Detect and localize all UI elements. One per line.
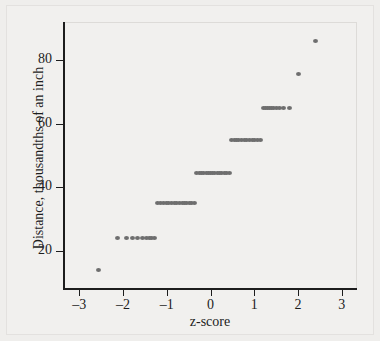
y-tick-mark bbox=[56, 124, 63, 125]
y-axis-spine bbox=[63, 22, 65, 290]
x-axis-label: z-score bbox=[63, 314, 357, 330]
figure-canvas: –3–2–10123 20406080 z-score Distance, th… bbox=[0, 0, 380, 341]
x-tick-label: –2 bbox=[103, 297, 143, 313]
x-tick-mark bbox=[167, 290, 168, 296]
x-tick-label: 2 bbox=[278, 297, 318, 313]
x-tick-mark bbox=[298, 290, 299, 296]
data-point bbox=[258, 138, 263, 142]
y-tick-mark bbox=[56, 251, 63, 252]
data-point bbox=[227, 171, 232, 175]
x-tick-label: –1 bbox=[147, 297, 187, 313]
x-tick-label: 1 bbox=[234, 297, 274, 313]
x-tick-mark bbox=[342, 290, 343, 296]
data-point bbox=[287, 106, 292, 110]
x-tick-label: 3 bbox=[322, 297, 362, 313]
x-tick-mark bbox=[79, 290, 80, 296]
y-tick-mark bbox=[56, 187, 63, 188]
x-tick-mark bbox=[123, 290, 124, 296]
x-tick-label: 0 bbox=[191, 297, 231, 313]
data-point bbox=[130, 236, 135, 240]
x-tick-label: –3 bbox=[59, 297, 99, 313]
y-tick-mark bbox=[56, 60, 63, 61]
y-axis-label: Distance, thousandths of an inch bbox=[31, 23, 47, 293]
data-point bbox=[152, 236, 157, 240]
data-point bbox=[281, 106, 286, 110]
plot-area-frame bbox=[63, 22, 357, 290]
x-tick-mark bbox=[211, 290, 212, 296]
x-tick-mark bbox=[254, 290, 255, 296]
